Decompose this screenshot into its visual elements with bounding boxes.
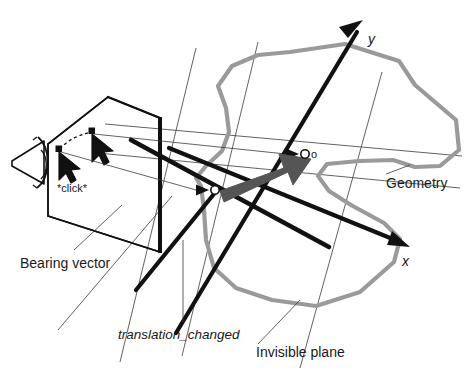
x-axis-arrowhead [387,231,410,247]
diagram-canvas: Bearing vector *click* translation_chang… [0,0,464,373]
geometry-label: Geometry [386,175,447,191]
camera-axis-tick-top [33,137,37,140]
translation-arrow [220,154,311,202]
cursor-end-dot [89,128,96,135]
camera-eye-icon [12,137,48,188]
camera-cone [12,141,44,184]
invisible-plane-leader [258,300,300,344]
start-node [211,186,219,194]
end-node-label: o [311,148,317,160]
geometry-leader [386,165,410,174]
y-axis-label: y [367,31,376,47]
translation-changed-label: translation_changed [118,327,240,342]
click-label: *click* [57,182,88,194]
cursor-start-dot [56,146,63,153]
invisible-plane-label: Invisible plane [256,344,345,360]
y-axis-arrowhead [339,20,363,38]
x-axis-label: x [401,253,410,269]
translation-arrow-shaft [220,154,311,202]
end-node [301,150,309,158]
bearing-vector-label: Bearing vector [20,255,111,271]
diagram-svg: Bearing vector *click* translation_chang… [0,0,464,373]
camera-axis-tick-bottom [33,185,37,188]
